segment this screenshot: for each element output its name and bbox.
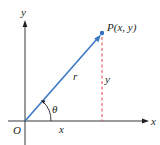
origin-label: O [13, 124, 21, 136]
y-axis-arrowhead-icon [23, 20, 28, 27]
y-axis-label: y [20, 6, 26, 18]
radius-label: r [73, 70, 78, 82]
angle-label: θ [52, 103, 58, 115]
angle-arc [43, 101, 52, 121]
radius-vector [25, 39, 97, 121]
polar-coordinates-diagram: y x O P(x, y) r θ x y [0, 0, 160, 145]
point-p-dot [100, 31, 104, 35]
point-label: P(x, y) [106, 21, 137, 34]
x-axis-label: x [150, 115, 156, 127]
horizontal-component-label: x [58, 123, 64, 135]
x-axis-arrowhead-icon [142, 119, 149, 124]
vertical-component-label: y [104, 73, 110, 85]
